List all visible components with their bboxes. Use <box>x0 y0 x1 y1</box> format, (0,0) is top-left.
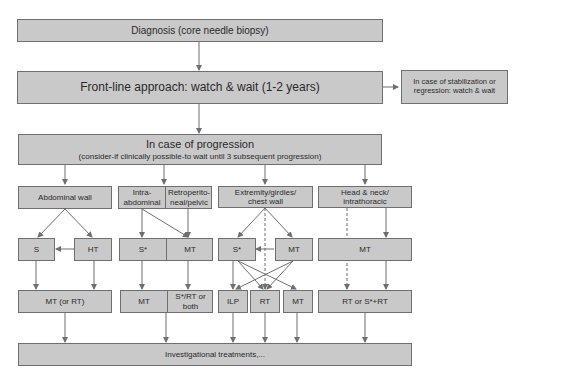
ia-s-label: S* <box>139 245 147 254</box>
ia-out-mt-label: MT <box>138 297 150 306</box>
diagnosis-box: Diagnosis (core needle biopsy) <box>17 19 383 42</box>
ex-rt-label: RT <box>260 297 271 306</box>
aw-s-box: S <box>18 238 55 261</box>
ex-ilp-label: ILP <box>227 297 239 306</box>
ex-mt-label: MT <box>288 245 300 254</box>
intra-retro-box: Intra-abdominal Retroperito-neal/pelvic <box>118 186 212 209</box>
hn-out-label: RT or S*+RT <box>342 297 388 306</box>
ia-out-box: MT S*/RT or both <box>120 290 213 313</box>
aw-s-label: S <box>34 245 39 254</box>
extremity-box: Extremity/girdles/ chest wall <box>218 186 313 208</box>
progression-box: In case of progression (consider-if clin… <box>18 134 382 165</box>
diagnosis-label: Diagnosis (core needle biopsy) <box>131 25 268 37</box>
ia-mt-label: MT <box>184 245 196 254</box>
investigational-label: Investigational treatments,... <box>165 350 265 359</box>
investigational-box: Investigational treatments,... <box>18 343 412 366</box>
aw-ht-label: HT <box>88 245 99 254</box>
ia-s-cell: S* <box>120 239 166 260</box>
ex-s-label: S* <box>233 245 241 254</box>
ex-s-box: S* <box>218 238 256 261</box>
progression-title: In case of progression <box>146 138 254 151</box>
frontline-label: Front-line approach: watch & wait (1-2 y… <box>80 81 319 95</box>
head-neck-label: Head & neck/ intrathoracic <box>335 188 395 206</box>
intra-abdominal-label: Intra-abdominal <box>122 188 162 206</box>
stabilization-label: In case of stabilization or regression: … <box>406 78 503 95</box>
ex-ilp-box: ILP <box>218 290 248 313</box>
ia-out-srt-cell: S*/RT or both <box>168 291 213 312</box>
hn-mt-box: MT <box>318 238 412 261</box>
frontline-box: Front-line approach: watch & wait (1-2 y… <box>17 71 383 104</box>
retroperitoneal-label: Retroperito-neal/pelvic <box>167 188 211 206</box>
ex-rt-box: RT <box>250 290 280 313</box>
retroperitoneal-cell: Retroperito-neal/pelvic <box>166 187 212 208</box>
progression-subtitle: (consider-if clinically possible-to wait… <box>79 152 322 161</box>
stabilization-box: In case of stabilization or regression: … <box>401 70 508 104</box>
aw-out-box: MT (or RT) <box>18 290 112 313</box>
extremity-label: Extremity/girdles/ chest wall <box>231 188 301 206</box>
ex-mt-box: MT <box>275 238 313 261</box>
ex-mt-out-label: MT <box>292 297 304 306</box>
ia-out-mt-cell: MT <box>121 291 167 312</box>
hn-mt-label: MT <box>359 245 371 254</box>
abdominal-wall-box: Abdominal wall <box>18 186 112 209</box>
ia-mt-cell: MT <box>167 239 213 260</box>
ex-mt-out-box: MT <box>283 290 313 313</box>
hn-out-box: RT or S*+RT <box>318 290 412 313</box>
intra-abdominal-cell: Intra-abdominal <box>119 187 165 208</box>
aw-out-label: MT (or RT) <box>46 297 85 306</box>
ia-out-srt-label: S*/RT or both <box>171 292 211 310</box>
aw-ht-box: HT <box>74 238 112 261</box>
ia-treatment-box: S* MT <box>119 238 213 261</box>
head-neck-box: Head & neck/ intrathoracic <box>318 186 412 208</box>
abdominal-wall-label: Abdominal wall <box>38 193 92 202</box>
